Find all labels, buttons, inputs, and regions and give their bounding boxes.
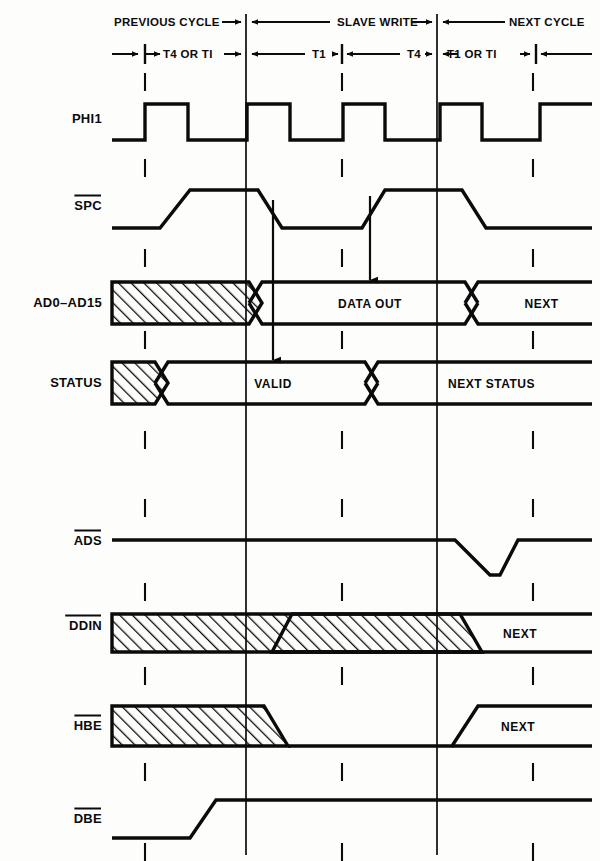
waveform-spc (112, 190, 592, 228)
signal-label-status: STATUS (50, 375, 102, 390)
waveform-ddin-next-label: NEXT (503, 627, 537, 641)
header-state-t1: T1 (312, 48, 326, 60)
header-state-t1-or-ti: T1 OR TI (447, 48, 497, 60)
waveform-ad0ad15-hatch-fill (112, 282, 262, 324)
header-cycle-previous: PREVIOUS CYCLE (114, 16, 220, 28)
header-cycle-next: NEXT CYCLE (509, 16, 585, 28)
waveform-ddin-hatch-fill (112, 614, 482, 652)
header-state-row: T4 OR TI T1 T4 T1 OR TI (112, 44, 592, 64)
signal-name-column: PHI1SPCAD0–AD15STATUSADSDDINHBEDBE (33, 111, 102, 826)
timing-diagram-svg: PREVIOUS CYCLE SLAVE WRITE NEXT CYCLE T4… (0, 0, 600, 861)
waveform-dbe (112, 800, 592, 838)
waveform-status-label-2: NEXT STATUS (448, 377, 535, 391)
header-state-t4: T4 (407, 48, 421, 60)
waveform-ad0ad15-label-2: NEXT (524, 297, 558, 311)
signal-label-phi1: PHI1 (72, 111, 102, 126)
waveform-status-label-1: VALID (254, 377, 292, 391)
header-cycle-slave-write: SLAVE WRITE (337, 16, 418, 28)
header-state-t4-or-ti: T4 OR TI (163, 48, 213, 60)
waveform-hbe-tail-top (288, 706, 592, 746)
waveform-ads (112, 540, 592, 575)
signal-label-spc: SPC (74, 198, 102, 213)
signal-label-ads: ADS (74, 533, 102, 548)
waveform-phi1 (112, 104, 592, 140)
signal-label-hbe: HBE (74, 718, 102, 733)
waveform-ad0ad15-label-1: DATA OUT (338, 297, 402, 311)
timing-diagram-canvas: PREVIOUS CYCLE SLAVE WRITE NEXT CYCLE T4… (0, 0, 600, 861)
header-cycle-row: PREVIOUS CYCLE SLAVE WRITE NEXT CYCLE (114, 16, 585, 28)
signal-label-dbe: DBE (74, 811, 102, 826)
waveform-hbe-hatch-fill (112, 706, 288, 746)
waveform-hbe-next-label: NEXT (501, 720, 535, 734)
signal-label-ad0ad15: AD0–AD15 (33, 295, 102, 310)
signal-label-ddin: DDIN (69, 618, 102, 633)
